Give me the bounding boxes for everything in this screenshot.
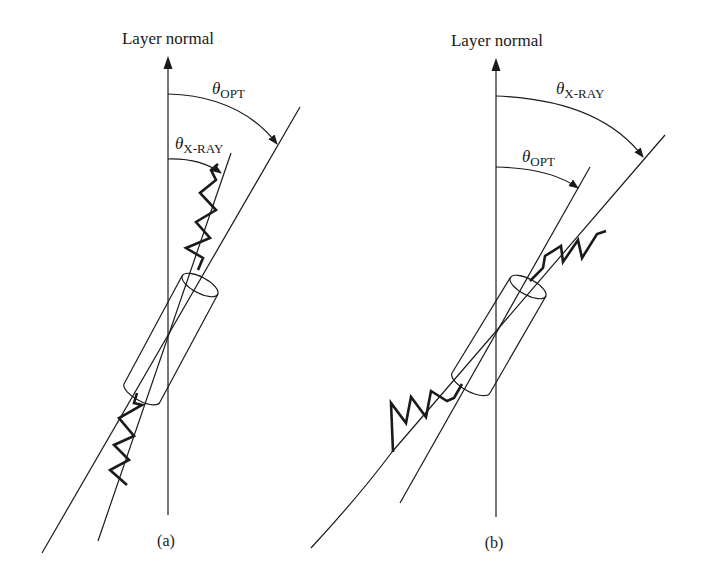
outer-axis-line-a: [42, 107, 300, 553]
panel-caption-a: (a): [157, 532, 175, 550]
panel-b: Layer normal θX-RAY θOPT (b): [311, 31, 665, 552]
outer-angle-arc-a: [168, 94, 277, 144]
layer-normal-label-a: Layer normal: [122, 29, 214, 48]
inner-angle-label-b: θOPT: [522, 147, 555, 169]
arrow-up-icon: [492, 58, 501, 71]
layer-normal-label-b: Layer normal: [451, 31, 543, 50]
inner-angle-arc-b: [496, 167, 578, 188]
outer-angle-arc-b: [496, 96, 643, 157]
alkyl-chain-upper-b: [530, 231, 606, 281]
inner-axis-line-b: [400, 167, 590, 503]
inner-angle-label-a: θX-RAY: [175, 134, 224, 156]
alkyl-chain-lower-b: [391, 384, 462, 452]
arrow-up-icon: [164, 56, 173, 69]
outer-axis-line-b: [311, 135, 665, 548]
molecule-cylinder-b: [452, 271, 550, 396]
outer-angle-label-b: θX-RAY: [556, 79, 605, 101]
alkyl-chain-upper-a: [186, 164, 218, 270]
smectic-tilt-diagram: Layer normal θOPT θX-RAY: [0, 0, 706, 583]
inner-angle-arc-a: [168, 159, 221, 173]
panel-caption-b: (b): [485, 534, 504, 552]
molecule-cylinder-a: [124, 269, 222, 405]
outer-angle-label-a: θOPT: [212, 79, 245, 101]
inner-axis-line-a: [98, 153, 231, 541]
panel-a: Layer normal θOPT θX-RAY: [42, 29, 300, 553]
